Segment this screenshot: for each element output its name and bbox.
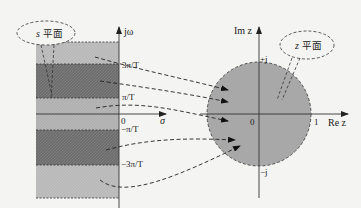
s-tick-neg-3pi-T: −3π/T bbox=[121, 159, 144, 169]
s-callout-text: 平面 bbox=[43, 28, 63, 39]
s-to-z-mapping-diagram: jω σ 0 3π/T π/T −π/T −3π/T s 平面 Im z Re … bbox=[0, 0, 361, 208]
z-real-axis-label: Re z bbox=[328, 117, 347, 128]
s-sigma-axis-label: σ bbox=[160, 115, 166, 126]
z-unit-label: 1 bbox=[314, 117, 319, 127]
z-plus-j-label: +j bbox=[260, 54, 268, 64]
s-plane: jω σ 0 3π/T π/T −π/T −3π/T s 平面 bbox=[17, 21, 166, 208]
z-origin-label: 0 bbox=[250, 117, 255, 127]
z-callout-text: 平面 bbox=[302, 40, 322, 51]
z-imag-axis-label: Im z bbox=[234, 25, 253, 36]
s-band-texture bbox=[36, 42, 119, 198]
s-tick-pi-T: π/T bbox=[122, 92, 135, 102]
z-callout-var: z bbox=[294, 40, 299, 51]
z-minus-j-label: −j bbox=[260, 167, 268, 177]
z-plane: Im z Re z 0 1 +j −j z 平面 bbox=[200, 25, 348, 198]
s-jw-axis-label: jω bbox=[123, 26, 134, 37]
s-callout-var: s bbox=[36, 28, 40, 39]
s-tick-neg-pi-T: −π/T bbox=[121, 124, 139, 134]
s-tick-3pi-T: 3π/T bbox=[122, 60, 140, 70]
